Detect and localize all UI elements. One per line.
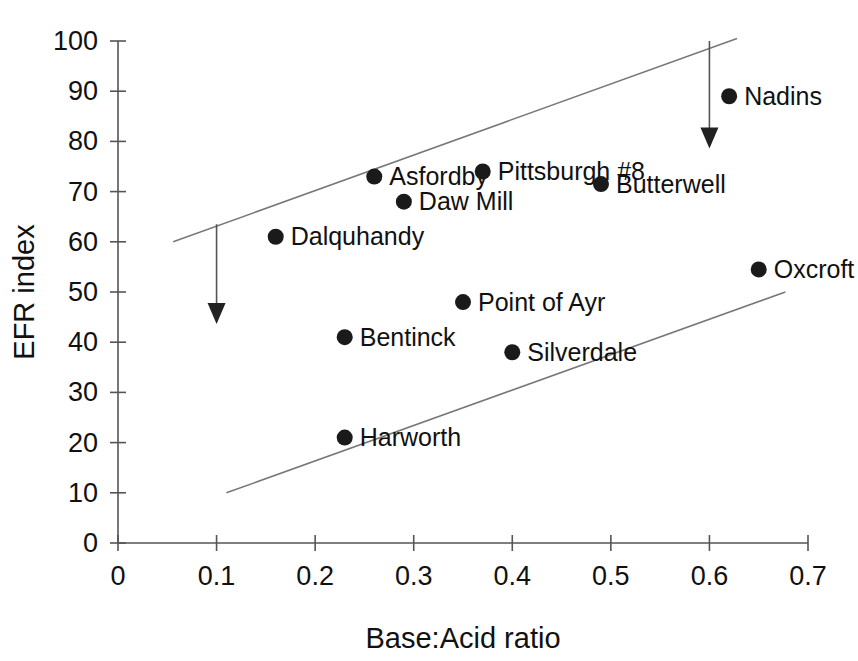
y-axis-title: EFR index (8, 224, 40, 360)
data-point (504, 344, 520, 360)
y-tick-label: 80 (68, 126, 98, 156)
data-point-label: Harworth (360, 423, 461, 451)
y-tick-label: 70 (68, 177, 98, 207)
data-point (593, 176, 609, 192)
y-tick-label: 0 (83, 528, 98, 558)
data-point (475, 164, 491, 180)
y-tick-label: 30 (68, 377, 98, 407)
data-point-label: Asfordby (389, 162, 488, 190)
chart-page: 0102030405060708090100 00.10.20.30.40.50… (0, 0, 858, 661)
data-point (366, 169, 382, 185)
data-point (455, 294, 471, 310)
y-tick-label: 100 (53, 26, 98, 56)
y-tick-label: 60 (68, 227, 98, 257)
axes (118, 41, 808, 543)
x-tick-label: 0 (110, 561, 125, 591)
x-tick-label: 0.3 (395, 561, 433, 591)
x-tick-label: 0.4 (494, 561, 532, 591)
data-point-label: Butterwell (616, 170, 726, 198)
data-point-label: Dalquhandy (291, 222, 425, 250)
y-tick-label: 10 (68, 478, 98, 508)
data-point (268, 229, 284, 245)
upper-right-arrow-head (700, 127, 718, 148)
y-axis-ticks: 0102030405060708090100 (53, 26, 126, 558)
data-point-label: Point of Ayr (478, 288, 605, 316)
lower-bound-line (226, 292, 785, 493)
x-tick-label: 0.6 (691, 561, 729, 591)
x-axis-title: Base:Acid ratio (365, 622, 560, 654)
x-tick-label: 0.5 (592, 561, 630, 591)
data-point-label: Oxcroft (774, 255, 855, 283)
y-tick-label: 90 (68, 76, 98, 106)
x-tick-label: 0.2 (296, 561, 334, 591)
y-tick-label: 50 (68, 277, 98, 307)
data-point-label: Silverdale (527, 338, 637, 366)
trend-lines (173, 38, 785, 492)
upper-left-arrow-head (208, 303, 226, 324)
y-tick-label: 40 (68, 327, 98, 357)
data-points: NadinsAsfordbyPittsburgh #8ButterwellDaw… (268, 82, 855, 451)
y-tick-label: 20 (68, 428, 98, 458)
data-point-label: Bentinck (360, 323, 456, 351)
x-tick-label: 0.7 (789, 561, 827, 591)
data-point (721, 88, 737, 104)
data-point (337, 329, 353, 345)
data-point (337, 430, 353, 446)
scatter-plot: 0102030405060708090100 00.10.20.30.40.50… (0, 0, 858, 661)
data-point-label: Daw Mill (419, 187, 513, 215)
data-point (751, 261, 767, 277)
x-tick-label: 0.1 (198, 561, 236, 591)
data-point-label: Nadins (744, 82, 822, 110)
data-point (396, 194, 412, 210)
